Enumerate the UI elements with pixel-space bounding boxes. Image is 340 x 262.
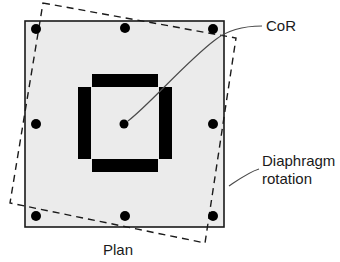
diaphragm-rotation-leader-line [229, 169, 259, 186]
column-top-left [31, 24, 41, 34]
column-bottom-left [31, 211, 41, 221]
column-top-right [208, 24, 218, 34]
cor-label: CoR [266, 17, 296, 34]
diaphragm-rotation-plan-diagram: CoR Diaphragm rotation Plan [0, 0, 340, 262]
column-mid-right [208, 119, 218, 129]
column-bottom-center [120, 211, 130, 221]
diaphragm-rotation-label-line1: Diaphragm [262, 152, 335, 169]
centre-of-rotation-marker [120, 120, 129, 129]
column-top-center [120, 23, 130, 33]
column-bottom-right [208, 211, 218, 221]
core-wall-right [159, 87, 172, 159]
core-wall-bottom [92, 159, 158, 172]
plan-caption: Plan [103, 241, 133, 258]
diaphragm-rotation-label-line2: rotation [262, 170, 312, 187]
core-wall-top [92, 74, 158, 87]
column-mid-left [31, 119, 41, 129]
core-wall-left [78, 87, 91, 159]
